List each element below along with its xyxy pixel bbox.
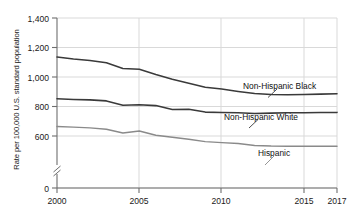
x-tick-label-2005: 2005 bbox=[119, 196, 159, 206]
y-tick-label-0: 0 bbox=[8, 184, 49, 194]
x-tick-label-2010: 2010 bbox=[201, 196, 241, 206]
series-lines bbox=[57, 57, 337, 146]
y-tick-label-600: 600 bbox=[8, 132, 49, 142]
y-axis-title: Rate per 100,000 U.S. standard populatio… bbox=[12, 10, 21, 190]
gridlines bbox=[57, 18, 337, 188]
y-tick-label-1000: 1,000 bbox=[8, 73, 49, 83]
series-label-non-hispanic-white: Non-Hispanic White bbox=[224, 112, 298, 122]
series-label-non-hispanic-black: Non-Hispanic Black bbox=[243, 81, 316, 91]
series-label-hispanic: Hispanic bbox=[258, 148, 290, 158]
y-tick-label-1200: 1,200 bbox=[8, 43, 49, 53]
y-axis bbox=[52, 18, 57, 188]
y-tick-label-1400: 1,400 bbox=[8, 14, 49, 24]
chart-canvas bbox=[0, 0, 351, 220]
x-tick-label-2000: 2000 bbox=[37, 196, 77, 206]
x-tick-label-2017: 2017 bbox=[317, 196, 351, 206]
line-chart: Rate per 100,000 U.S. standard populatio… bbox=[0, 0, 351, 220]
x-axis bbox=[57, 188, 337, 193]
y-tick-label-800: 800 bbox=[8, 102, 49, 112]
